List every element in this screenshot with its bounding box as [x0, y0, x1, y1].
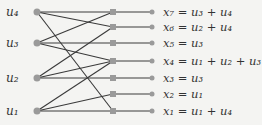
input-label-u2: u₂	[6, 71, 19, 85]
output-node-x3	[150, 76, 155, 81]
edge-u1-x4	[37, 61, 113, 111]
input-label-u3: u₃	[6, 36, 19, 50]
output-node-x4	[150, 59, 155, 64]
output-label-x4: x₄ = u₁ + u₂ + u₃	[163, 54, 261, 68]
input-label-u1: u₁	[6, 104, 19, 118]
output-node-x7	[150, 10, 155, 15]
output-label-x3: x₃ = u₃	[163, 71, 203, 85]
input-node-u2	[34, 75, 41, 82]
output-node-x5	[150, 41, 155, 46]
input-node-u4	[34, 9, 41, 16]
output-label-x6: x₆ = u₂ + u₄	[163, 20, 232, 34]
edge-u1-x2	[37, 94, 113, 111]
output-node-x1	[150, 109, 155, 114]
edge-u4-x6	[37, 12, 113, 27]
edge-u2-x4	[37, 61, 113, 78]
output-label-x7: x₇ = u₃ + u₄	[163, 5, 232, 19]
square-node-x6	[110, 24, 116, 30]
output-label-x5: x₅ = u₃	[163, 36, 203, 50]
output-label-x1: x₁ = u₁ + u₄	[163, 104, 232, 118]
input-node-u3	[34, 40, 41, 47]
edge-u2-x6	[37, 27, 113, 78]
output-node-x6	[150, 25, 155, 30]
square-node-x4	[110, 58, 116, 64]
square-node-x2	[110, 91, 116, 97]
square-node-x3	[110, 75, 116, 81]
square-node-x5	[110, 40, 116, 46]
output-node-x2	[150, 92, 155, 97]
output-label-x2: x₂ = u₁	[163, 87, 203, 101]
input-node-u1	[34, 108, 41, 115]
square-node-x1	[110, 108, 116, 114]
square-node-x7	[110, 9, 116, 15]
input-label-u4: u₄	[6, 5, 19, 19]
